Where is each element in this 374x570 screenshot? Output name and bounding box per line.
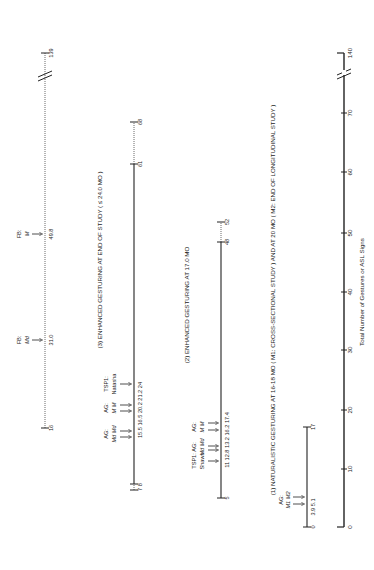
fb-sub: M — [24, 231, 30, 236]
panel-enhanced-17mo: 5 48 52 11 12.8 13.2 16.2 17.4 Shawn TSP… — [183, 219, 230, 500]
range-start: 7 8 — [137, 483, 143, 491]
fb-label: FB: — [16, 335, 22, 344]
panel-title: (3) ENHANCED GESTURING AT END OF STUDY (… — [96, 171, 103, 348]
panel-title: (2) ENHANCED GESTURING AT 17.0 MO — [183, 246, 190, 363]
x-axis: 0 10 20 30 40 50 60 70 140 Total Number … — [337, 47, 365, 528]
tick-label: 60 — [346, 168, 353, 175]
group-sub: M1 M2 — [285, 491, 291, 509]
value-labels: 3.9 5.1 — [310, 498, 316, 515]
range-end: 17 — [310, 424, 316, 430]
group-label: AG: — [191, 422, 197, 432]
group-label: AG: — [103, 429, 109, 439]
tick-label: 30 — [346, 346, 353, 353]
tick-label: 0 — [346, 525, 353, 529]
panel-enhanced-end: 7 8 61 68 15.5 16.5 20.2 21.2 24 Md Md A… — [96, 119, 143, 491]
range-mid: 48 — [224, 239, 230, 245]
group-sub: Natasha — [111, 373, 117, 395]
group-sub: M M — [111, 402, 117, 413]
fb-value: 31.0 — [48, 335, 54, 346]
group-label: TSP1: — [191, 453, 197, 469]
range-start: 16 — [48, 425, 54, 431]
tick-label: 140 — [346, 47, 353, 58]
value-labels: 11 12.8 13.2 16.2 17.4 — [224, 412, 230, 468]
axis-title: Total Number of Gestures or ASL Signs — [358, 238, 365, 346]
panel-fb-range: 16 139 Md FB: 31.0 M FB: 49.8 — [16, 48, 54, 431]
range-end: 52 — [224, 219, 230, 225]
group-label: AG: — [103, 403, 109, 413]
range-mid: 61 — [137, 161, 143, 167]
fb-value: 49.8 — [48, 229, 54, 240]
group-label: AG: — [278, 495, 284, 505]
tick-label: 50 — [346, 229, 353, 236]
range-start: 0 — [310, 525, 316, 528]
range-end: 139 — [48, 48, 54, 57]
group-sub: M M — [199, 421, 205, 432]
range-start: 5 — [224, 496, 230, 499]
tick-label: 10 — [346, 465, 353, 472]
tick-label: 20 — [346, 406, 353, 413]
panel-title: (1) NATURALISTIC GESTURING AT 16-18 MO (… — [269, 105, 276, 496]
fb-label: FB: — [16, 229, 22, 238]
gesture-range-diagram: 0 10 20 30 40 50 60 70 140 Total Number … — [0, 0, 374, 570]
group-sub: Md Md — [111, 425, 117, 443]
panel-naturalistic: 0 17 3.9 5.1 M1 M2 AG: (1) NATURALISTIC … — [269, 105, 316, 529]
fb-sub: Md — [24, 335, 30, 344]
value-labels: 15.5 16.5 20.2 21.2 24 — [137, 382, 143, 438]
tick-label: 70 — [346, 109, 353, 116]
range-end: 68 — [137, 119, 143, 125]
group-label: TSP1: — [103, 376, 109, 392]
group-sub: Md Md — [199, 438, 205, 456]
tick-label: 40 — [346, 288, 353, 295]
group-label: AG: — [191, 442, 197, 452]
